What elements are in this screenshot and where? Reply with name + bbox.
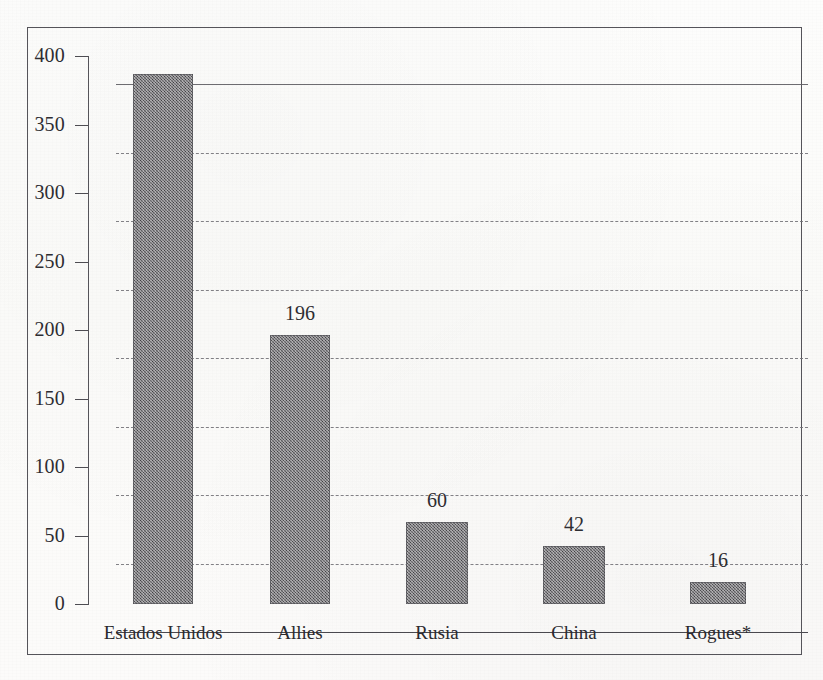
- gridline-350: [116, 153, 808, 154]
- gridline-250: [116, 290, 808, 291]
- y-tick-mark-100: [75, 467, 88, 468]
- x-tick-label-5: Rogues*: [623, 622, 813, 644]
- y-tick-mark-300: [75, 193, 88, 194]
- gridline-300: [116, 221, 808, 222]
- y-tick-mark-400: [75, 56, 88, 57]
- bar-3: [406, 522, 468, 604]
- y-tick-mark-150: [75, 399, 88, 400]
- bar-4: [543, 546, 605, 604]
- y-tick-mark-0: [75, 604, 88, 605]
- bar-5: [690, 582, 746, 604]
- y-tick-label-250: 250: [0, 251, 65, 271]
- y-tick-mark-200: [75, 330, 88, 331]
- y-tick-label-300: 300: [0, 182, 65, 202]
- gridline-200: [116, 358, 808, 359]
- y-tick-label-150: 150: [0, 388, 65, 408]
- gridline-400: [116, 84, 808, 85]
- y-tick-mark-250: [75, 262, 88, 263]
- y-tick-label-50: 50: [0, 525, 65, 545]
- y-tick-label-200: 200: [0, 319, 65, 339]
- bar-value-label-3: 60: [397, 490, 477, 510]
- y-tick-mark-50: [75, 536, 88, 537]
- bar-value-label-4: 42: [534, 514, 614, 534]
- bar-value-label-2: 196: [260, 303, 340, 323]
- y-tick-label-100: 100: [0, 456, 65, 476]
- y-tick-mark-350: [75, 125, 88, 126]
- bar-value-label-5: 16: [678, 550, 758, 570]
- y-tick-label-350: 350: [0, 114, 65, 134]
- y-tick-label-400: 400: [0, 45, 65, 65]
- gridline-150: [116, 427, 808, 428]
- y-axis-line: [88, 56, 89, 605]
- bar-2: [270, 335, 330, 604]
- bar-1: [133, 74, 193, 604]
- y-tick-label-0: 0: [0, 593, 65, 613]
